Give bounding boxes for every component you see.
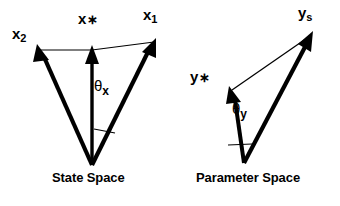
label-ys-subscript: s [306,11,312,23]
diagram-canvas: x2 x∗ x1 θx State Space y∗ ys θy Paramet… [0,0,340,206]
label-x1: x1 [143,7,157,25]
label-theta-y: θy [232,101,247,120]
state-space-tip-connector [39,42,154,50]
caption-state-space: State Space [52,171,125,184]
vector-x-star [85,45,99,165]
vector-x2 [33,44,92,165]
label-x2-subscript: 2 [20,32,26,44]
vector-y-star [226,86,244,163]
label-theta-x: θx [94,78,109,97]
state-space-panel [33,38,156,165]
caption-parameter-space: Parameter Space [196,171,300,184]
label-theta-x-subscript: x [102,84,109,98]
label-y-star: y∗ [190,69,210,84]
asterisk-icon: ∗ [87,12,98,27]
label-x-star-base: x [78,10,86,27]
vector-ys [244,31,313,163]
label-theta-y-subscript: y [240,107,247,121]
asterisk-icon: ∗ [199,70,210,85]
label-ys: ys [298,5,312,23]
label-x-star: x∗ [78,11,98,26]
vector-x1 [92,38,156,165]
parameter-space-angle-marker [228,144,252,145]
label-x1-subscript: 1 [151,13,157,25]
label-x2: x2 [12,26,26,44]
parameter-space-panel [226,31,313,163]
label-y-star-base: y [190,68,198,85]
